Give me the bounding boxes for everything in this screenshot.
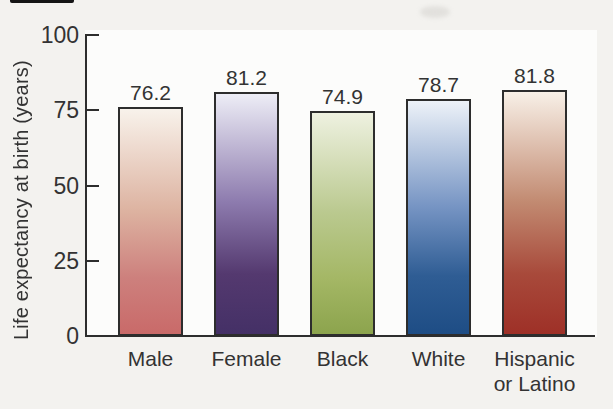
value-label-female: 81.2 [199, 66, 295, 90]
y-tick-label-0: 0 [37, 324, 79, 348]
y-tick-mark-75 [86, 109, 99, 111]
bar-female [214, 92, 279, 336]
y-tick-label-50: 50 [37, 174, 79, 198]
value-label-hispanic-or-latino: 81.8 [487, 64, 583, 88]
y-tick-mark-0 [86, 335, 99, 337]
value-label-white: 78.7 [391, 73, 487, 97]
value-label-male: 76.2 [103, 81, 199, 105]
y-tick-label-100: 100 [37, 23, 79, 47]
y-tick-mark-50 [86, 185, 99, 187]
x-tick-label-male: Male [103, 346, 199, 371]
x-tick-label-black: Black [295, 346, 391, 371]
value-label-black: 74.9 [295, 85, 391, 109]
bar-male [118, 107, 183, 336]
x-tick-label-hispanic-or-latino: Hispanic or Latino [487, 346, 583, 396]
bar-white [406, 99, 471, 336]
y-tick-mark-25 [86, 260, 99, 262]
y-tick-mark-100 [86, 34, 99, 36]
x-tick-label-white: White [391, 346, 487, 371]
y-tick-label-25: 25 [37, 249, 79, 273]
y-axis-title: Life expectancy at birth (years) [4, 50, 38, 350]
y-tick-label-75: 75 [37, 98, 79, 122]
bar-black [310, 111, 375, 336]
scan-artifact-strip [10, 0, 74, 3]
x-tick-label-female: Female [199, 346, 295, 371]
bar-hispanic-or-latino [502, 90, 567, 336]
bar-chart-figure: Life expectancy at birth (years) 1007550… [0, 0, 613, 409]
scan-artifact-smudge [420, 6, 450, 18]
